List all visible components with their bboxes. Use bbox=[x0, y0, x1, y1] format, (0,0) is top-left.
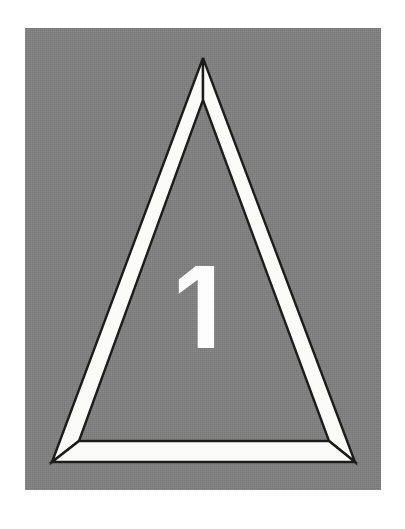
triangle-figure-svg bbox=[25, 28, 381, 490]
triangle-bottom-band bbox=[52, 441, 355, 462]
triangle-left-band bbox=[52, 58, 203, 462]
figure-plate bbox=[25, 28, 381, 490]
figure-root bbox=[0, 0, 405, 529]
triangle-right-band bbox=[203, 58, 355, 462]
figure-number-glyph bbox=[179, 266, 214, 348]
